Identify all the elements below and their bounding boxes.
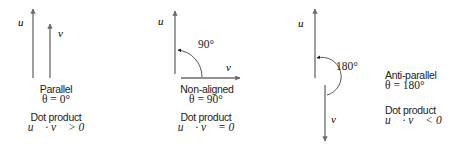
parallel-dot-expr: u⃗ · v⃗ > 0 <box>28 122 85 134</box>
vector-v-label: v⃗ <box>226 61 239 73</box>
vector-u-label: u⃗ <box>298 17 312 29</box>
angle-label: 90° <box>198 39 214 51</box>
angle-label: 180° <box>336 61 358 73</box>
vector-v-label: v⃗ <box>331 113 344 125</box>
angle-arc <box>178 50 202 77</box>
parallel-theta: θ = 0° <box>42 94 70 106</box>
anti-parallel-dot-expr: u⃗ · v⃗ < 0 <box>385 115 442 127</box>
parallel-panel <box>33 9 50 78</box>
non-aligned-theta: θ = 90° <box>189 94 223 106</box>
vector-u-label: u⃗ <box>158 15 172 27</box>
non-aligned-dot-expr: u⃗ · v⃗ = 0 <box>178 122 235 134</box>
anti-parallel-theta: θ = 180° <box>385 80 425 92</box>
vector-v-label: v⃗ <box>58 27 71 39</box>
vector-u-label: u⃗ <box>18 16 32 28</box>
